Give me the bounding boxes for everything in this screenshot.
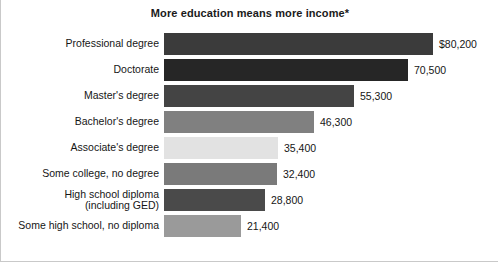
bar (164, 189, 265, 211)
table-row: Professional degree $80,200 (1, 33, 498, 59)
table-row: Some college, no degree 32,400 (1, 163, 498, 189)
bar-value-label: 55,300 (354, 85, 392, 107)
bar-track: 55,300 (164, 85, 498, 107)
bar-value-label: 70,500 (408, 59, 446, 81)
table-row: Some high school, no diploma 21,400 (1, 215, 498, 241)
bar-value-label: $80,200 (433, 33, 477, 55)
bar-track: $80,200 (164, 33, 498, 55)
bar-track: 32,400 (164, 163, 498, 185)
category-label: Master's degree (0, 85, 159, 107)
bar-value-label: 46,300 (314, 111, 352, 133)
table-row: Bachelor's degree 46,300 (1, 111, 498, 137)
table-row: Doctorate 70,500 (1, 59, 498, 85)
education-income-bar-chart: More education means more income* Profes… (0, 0, 498, 262)
plot-area: Professional degree $80,200 Doctorate 70… (1, 33, 498, 241)
bar (164, 59, 408, 81)
bar-value-label: 28,800 (265, 189, 303, 211)
category-label: Some college, no degree (0, 163, 159, 185)
bar (164, 33, 433, 55)
bar-value-label: 32,400 (277, 163, 315, 185)
table-row: Associate's degree 35,400 (1, 137, 498, 163)
bar-value-label: 35,400 (278, 137, 316, 159)
category-label: Some high school, no diploma (0, 215, 159, 237)
category-label: High school diploma (including GED) (0, 189, 159, 211)
bar-track: 46,300 (164, 111, 498, 133)
bar-value-label: 21,400 (241, 215, 279, 237)
bar (164, 137, 278, 159)
bar (164, 111, 314, 133)
bar-track: 21,400 (164, 215, 498, 237)
category-label: Bachelor's degree (0, 111, 159, 133)
table-row: Master's degree 55,300 (1, 85, 498, 111)
chart-title: More education means more income* (1, 7, 498, 19)
bar (164, 163, 277, 185)
bar (164, 85, 354, 107)
bar-track: 35,400 (164, 137, 498, 159)
category-label: Associate's degree (0, 137, 159, 159)
bar-track: 70,500 (164, 59, 498, 81)
table-row: High school diploma (including GED) 28,8… (1, 189, 498, 215)
category-label: Doctorate (0, 59, 159, 81)
bar-track: 28,800 (164, 189, 498, 211)
bar (164, 215, 241, 237)
category-label: Professional degree (0, 33, 159, 55)
